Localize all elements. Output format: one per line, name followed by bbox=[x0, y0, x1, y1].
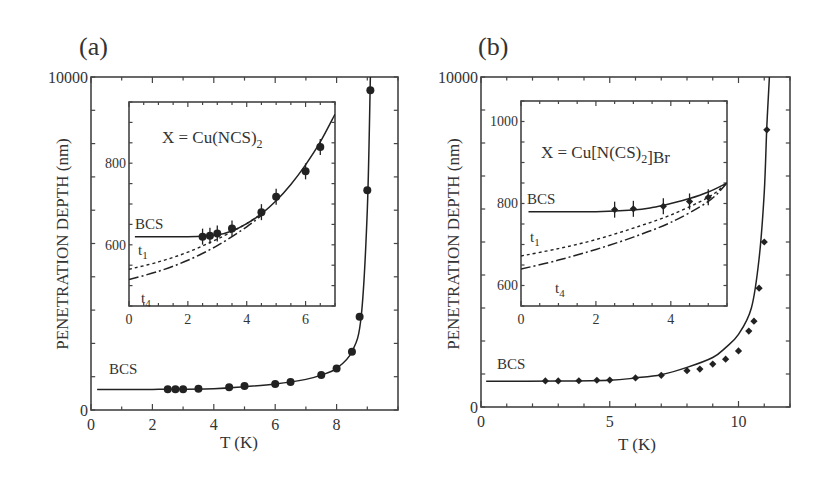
x-tick-label: 2 bbox=[592, 312, 599, 327]
x-tick-label: 10 bbox=[731, 413, 747, 430]
y-axis-label-a: PENETRATION DEPTH (nm) bbox=[53, 138, 72, 350]
x-tick-label: 2 bbox=[184, 312, 191, 327]
y-tick-label: 0 bbox=[470, 399, 478, 416]
figure: (a) 02468010000 T (K) PENETRATION DEPTH … bbox=[0, 0, 831, 489]
bcs-label-a: BCS bbox=[109, 361, 137, 377]
inset-plot-a: 0246600800X = Cu(NCS)2BCSt1t4 bbox=[105, 102, 335, 327]
y-tick-label: 600 bbox=[105, 238, 126, 253]
y-tick-label: 800 bbox=[497, 196, 518, 211]
y-tick-label: 0 bbox=[80, 402, 88, 419]
bcs-label-b: BCS bbox=[497, 356, 525, 372]
data-point-marker bbox=[213, 229, 221, 237]
x-tick-label: 4 bbox=[667, 312, 674, 327]
y-tick-label: 800 bbox=[105, 156, 126, 171]
y-tick-label: 10000 bbox=[48, 69, 88, 86]
panel-a: (a) 02468010000 T (K) PENETRATION DEPTH … bbox=[48, 32, 398, 452]
y-tick-label: 600 bbox=[497, 278, 518, 293]
x-axis-label-a: T (K) bbox=[220, 433, 258, 452]
y-axis-label-b: PENETRATION DEPTH (nm) bbox=[444, 138, 463, 350]
x-tick-label: 0 bbox=[518, 312, 525, 327]
x-tick-label: 6 bbox=[271, 416, 279, 433]
inset-plot-b: 0246008001000X = Cu[N(CS)2]BrBCSt1t4 bbox=[490, 101, 727, 327]
y-tick-label: 10000 bbox=[438, 69, 478, 86]
x-tick-label: 6 bbox=[302, 312, 309, 327]
x-tick-label: 0 bbox=[87, 416, 95, 433]
x-tick-label: 2 bbox=[148, 416, 156, 433]
x-tick-label: 0 bbox=[126, 312, 133, 327]
curve-label-bcs: BCS bbox=[527, 191, 555, 207]
x-tick-label: 0 bbox=[477, 413, 485, 430]
panel-label-b: (b) bbox=[478, 32, 508, 61]
x-tick-label: 8 bbox=[333, 416, 341, 433]
y-tick-label: 1000 bbox=[490, 114, 518, 129]
x-tick-label: 4 bbox=[210, 416, 218, 433]
x-tick-label: 5 bbox=[606, 413, 614, 430]
x-axis-label-b: T (K) bbox=[618, 435, 656, 454]
data-point-marker bbox=[272, 193, 280, 201]
x-tick-label: 4 bbox=[243, 312, 250, 327]
curve-label-bcs: BCS bbox=[135, 216, 163, 232]
data-point-marker bbox=[356, 313, 364, 321]
panel-label-a: (a) bbox=[79, 32, 108, 61]
panel-b: (b) 0510010000 T (K) PENETRATION DEPTH (… bbox=[438, 32, 790, 454]
